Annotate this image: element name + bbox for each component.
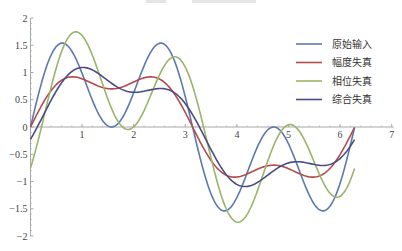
legend-item: 幅度失真 [296, 56, 372, 68]
y-tick-label: 0.5 [15, 94, 28, 105]
x-tick-label: 7 [389, 129, 394, 140]
x-tick-label: 3 [183, 129, 188, 140]
x-tick-label: 4 [234, 129, 239, 140]
legend-label: 幅度失真 [332, 56, 372, 68]
x-tick-label: 2 [131, 129, 136, 140]
legend-item: 相位失真 [296, 75, 372, 87]
legend-label: 综合失真 [332, 93, 372, 105]
legend-item: 综合失真 [296, 93, 372, 105]
y-tick-label: 1 [23, 67, 28, 78]
y-tick-label: −1 [17, 176, 28, 187]
x-tick-label: 5 [286, 129, 291, 140]
y-tick-label: 0 [23, 122, 28, 133]
x-tick-label: 1 [80, 129, 85, 140]
y-tick-label: −1.5 [9, 203, 27, 214]
y-tick-label: 2 [23, 13, 28, 24]
legend-item: 原始输入 [296, 38, 372, 50]
y-tick-label: −0.5 [9, 149, 27, 160]
x-tick-label: 6 [338, 129, 343, 140]
y-tick-label: 1.5 [15, 40, 28, 51]
legend-label: 相位失真 [332, 75, 372, 87]
legend: 原始输入幅度失真相位失真综合失真 [296, 38, 372, 106]
y-tick-label: −2 [17, 231, 28, 242]
legend-label: 原始输入 [332, 38, 372, 50]
line-chart: −2−1.5−1−0.500.511.521234567 原始输入幅度失真相位失… [0, 0, 402, 251]
